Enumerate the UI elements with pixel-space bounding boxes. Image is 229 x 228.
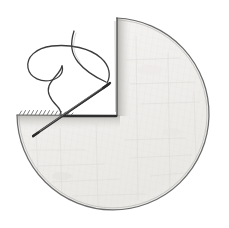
vertical-cut-edge [115,18,117,116]
illustration-canvas: Hand-drawn pencil illustration: a light … [0,0,229,228]
needle-and-thread-illustration [0,0,229,228]
thread-loop-lower [48,66,62,115]
thread-upper-tail [72,31,106,82]
cut-edge-shadow-band [14,115,120,132]
vertical-edge-shadow-band [117,18,133,116]
sewing-thread [28,31,109,115]
circular-fabric-disc [0,0,229,228]
disc-pencil-texture [0,0,229,228]
